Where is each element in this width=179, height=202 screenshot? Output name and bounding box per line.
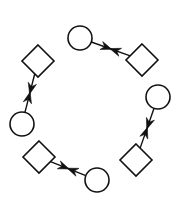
pair-bottom (23, 141, 109, 192)
pair-top (68, 26, 158, 76)
diagram-canvas (0, 0, 179, 202)
circle-node (85, 168, 109, 192)
diamond-node (23, 141, 55, 173)
circle-node (146, 85, 170, 109)
diamond-node (120, 144, 152, 176)
circle-node (68, 26, 92, 50)
pair-left (10, 45, 54, 136)
pair-right (120, 85, 170, 176)
diamond-node (22, 45, 54, 77)
circle-node (10, 112, 34, 136)
diamond-node (126, 44, 158, 76)
